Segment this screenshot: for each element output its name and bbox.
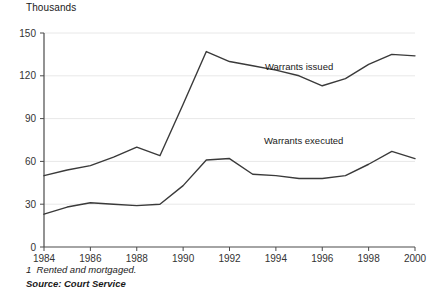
x-axis-tick-label: 1994 — [265, 253, 288, 264]
y-axis-tick-label: 0 — [30, 242, 36, 253]
x-axis-tick-label: 1996 — [311, 253, 334, 264]
gridlines-group — [44, 33, 415, 204]
data-series-line — [44, 151, 415, 214]
data-series-line — [44, 52, 415, 176]
x-axis-tick-label: 2000 — [404, 253, 427, 264]
series-annotations: Warrants issuedWarrants executed — [264, 61, 343, 146]
footnotes: 1 Rented and mortgaged. Source: Court Se… — [26, 263, 136, 291]
series-label-warrants-issued: Warrants issued — [265, 61, 333, 72]
y-axis-tick-label: 30 — [25, 199, 37, 210]
footnote-marker: 1 — [26, 264, 31, 275]
chart-container: Thousands 0306090120150 1984198619881990… — [0, 0, 434, 296]
footnote-note-text: Rented and mortgaged. — [37, 264, 137, 275]
series-label-warrants-executed: Warrants executed — [264, 135, 343, 146]
x-axis-tick-label: 1998 — [358, 253, 381, 264]
y-axis: 0306090120150 — [19, 28, 44, 253]
y-axis-tick-label: 60 — [25, 156, 37, 167]
x-axis-tick-label: 1990 — [172, 253, 195, 264]
x-axis: 198419861988199019921994199619982000 — [33, 247, 427, 264]
y-axis-tick-label: 150 — [19, 28, 36, 39]
y-axis-tick-label: 120 — [19, 70, 36, 81]
line-chart-plot: 0306090120150 19841986198819901992199419… — [0, 0, 434, 296]
footnote-note: 1 Rented and mortgaged. — [26, 263, 136, 277]
x-axis-tick-label: 1992 — [218, 253, 241, 264]
y-axis-tick-label: 90 — [25, 113, 37, 124]
footnote-source: Source: Court Service — [26, 277, 136, 291]
